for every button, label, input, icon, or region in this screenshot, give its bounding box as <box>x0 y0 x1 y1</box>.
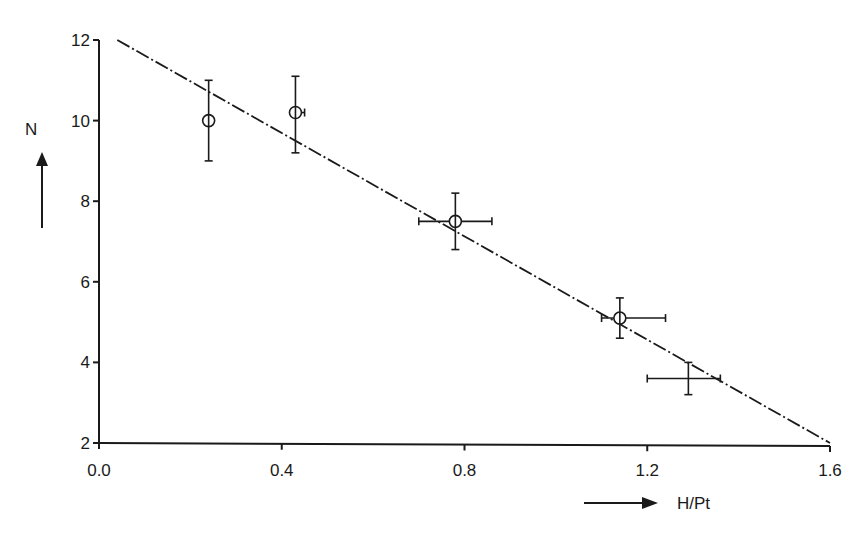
x-tick-label: 1.2 <box>635 461 659 480</box>
x-tick-label: 0.8 <box>453 461 477 480</box>
y-tick-label: 2 <box>81 434 90 453</box>
data-points <box>203 76 721 394</box>
data-point <box>203 80 215 161</box>
y-tick-label: 8 <box>81 192 90 211</box>
y-tick-label: 4 <box>81 353 90 372</box>
x-ticks: 0.00.40.81.21.6 <box>87 443 842 480</box>
up-arrow-icon <box>36 152 48 228</box>
data-point <box>647 362 720 394</box>
y-axis-title: N <box>25 120 37 139</box>
y-tick-label: 6 <box>81 273 90 292</box>
data-point <box>602 298 666 338</box>
right-arrow-icon <box>584 497 658 509</box>
x-axis-title: H/Pt <box>677 494 710 513</box>
x-tick-label: 0.0 <box>87 461 111 480</box>
linear-fit-line <box>117 40 830 443</box>
x-tick-label: 1.6 <box>818 461 842 480</box>
scatter-chart: 24681012 0.00.40.81.21.6 N H/Pt <box>0 0 867 538</box>
y-ticks: 24681012 <box>71 31 99 453</box>
x-tick-label: 0.4 <box>270 461 294 480</box>
data-point <box>419 193 492 249</box>
y-tick-label: 10 <box>71 112 90 131</box>
y-tick-label: 12 <box>71 31 90 50</box>
